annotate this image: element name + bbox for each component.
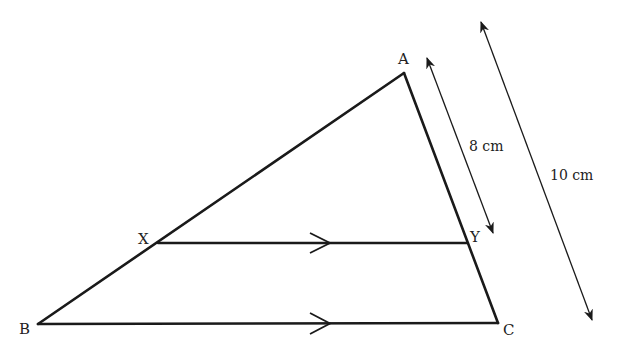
vertex-label-c: C [503,323,514,338]
vertex-label-y: Y [470,230,480,245]
side-bc [38,323,498,324]
side-ab [38,73,404,324]
vertex-label-b: B [19,322,30,337]
measurement-label-ay: 8 cm [469,139,503,153]
similar-triangles-diagram: A B C X Y 8 cm 10 cm [0,0,622,357]
diagram-canvas [0,0,622,357]
vertex-label-a: A [398,52,409,67]
vertex-label-x: X [138,232,149,247]
measurement-label-ac: 10 cm [550,168,593,182]
side-ac [404,73,498,323]
